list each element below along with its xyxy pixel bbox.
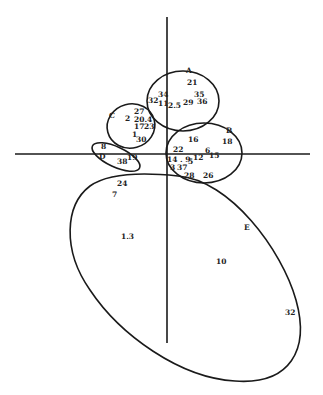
point-label: 26 xyxy=(203,171,213,180)
point-label: 21 xyxy=(187,78,197,87)
point-label: 2 xyxy=(125,114,130,123)
point-label: 16 xyxy=(188,135,198,144)
point-label: 19 xyxy=(127,153,137,162)
point-label: 1.3 xyxy=(121,232,134,241)
point-label: 22 xyxy=(173,145,183,154)
cluster-diagram: ABCDE 21343532112.5293627220.41723130838… xyxy=(0,0,323,395)
point-label: 32 xyxy=(148,96,158,105)
point-label: 11 xyxy=(158,99,168,108)
cluster-outlines xyxy=(70,71,300,381)
point-label: 34 xyxy=(158,90,168,99)
data-point-labels: 21343532112.5293627220.41723130838191618… xyxy=(101,78,295,317)
point-label: 3 xyxy=(170,163,175,172)
point-label: 28 xyxy=(184,171,194,180)
point-label: 8 xyxy=(101,142,106,151)
point-label: 24 xyxy=(117,179,127,188)
point-label: 32 xyxy=(285,308,295,317)
point-label: 38 xyxy=(117,157,127,166)
cluster-c-label: C xyxy=(109,111,115,120)
point-label: 10 xyxy=(216,257,226,266)
cluster-e-outline xyxy=(70,174,300,381)
point-label: 7 xyxy=(112,190,117,199)
cluster-e-label: E xyxy=(244,223,250,232)
point-label: 30 xyxy=(136,135,146,144)
point-label: 5 xyxy=(188,157,193,166)
point-label: 18 xyxy=(222,137,232,146)
point-label: 2.5 xyxy=(168,101,181,110)
point-label: 15 xyxy=(209,151,219,160)
cluster-a-label: A xyxy=(185,66,192,75)
cluster-d-label: D xyxy=(99,152,106,161)
point-label: 12 xyxy=(193,153,203,162)
point-label: 36 xyxy=(197,97,207,106)
point-label: 23 xyxy=(144,122,154,131)
cluster-b-label: B xyxy=(226,126,232,135)
point-label: 29 xyxy=(183,98,193,107)
